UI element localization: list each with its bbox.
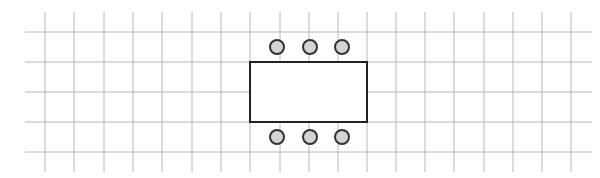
table-rectangle: [250, 62, 367, 122]
chair-circle: [335, 40, 349, 54]
chair-circle: [303, 130, 317, 144]
chair-circle: [270, 40, 284, 54]
chair-circle: [270, 130, 284, 144]
chair-circle: [303, 40, 317, 54]
grid-diagram: [0, 0, 600, 178]
chair-circle: [335, 130, 349, 144]
